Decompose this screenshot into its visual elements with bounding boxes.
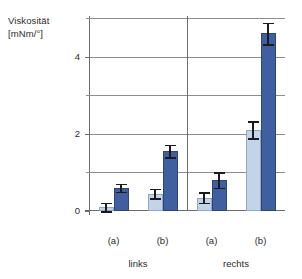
errorbar-dark-group-3-cap-upper — [263, 23, 274, 25]
errorbar-light-group-1-cap-lower — [150, 198, 161, 200]
group-label-1: rechts — [223, 258, 249, 269]
errorbar-dark-group-1 — [169, 145, 171, 157]
bars-layer — [89, 18, 285, 211]
viscosity-bar-chart: Viskosität [mNm/°] 024 (a)(b)(a)(b)links… — [0, 0, 302, 279]
x-axis-labels: (a)(b)(a)(b)linksrechts — [89, 214, 285, 274]
x-tick-label-1: (b) — [157, 235, 169, 246]
errorbar-dark-group-3-cap-lower — [263, 44, 274, 46]
errorbar-light-group-3 — [252, 121, 254, 138]
x-tick-label-0: (a) — [108, 235, 120, 246]
errorbar-light-group-3-cap-lower — [248, 138, 259, 140]
x-tick-label-3: (b) — [255, 235, 267, 246]
errorbar-light-group-3-cap-upper — [248, 121, 259, 123]
errorbar-light-group-0-cap-upper — [101, 203, 112, 205]
bar-light-group-3 — [246, 130, 261, 211]
errorbar-light-group-2-cap-upper — [199, 192, 210, 194]
errorbar-light-group-0-cap-lower — [101, 211, 112, 213]
errorbar-dark-group-0-cap-lower — [116, 192, 127, 194]
errorbar-dark-group-2-cap-upper — [214, 172, 225, 174]
errorbar-light-group-2-cap-lower — [199, 203, 210, 205]
errorbar-dark-group-2-cap-lower — [214, 188, 225, 190]
bar-dark-group-3 — [261, 33, 276, 211]
errorbar-dark-group-0-cap-upper — [116, 184, 127, 186]
y-tick-major — [85, 211, 90, 212]
y-tick-label: 2 — [54, 128, 80, 139]
errorbar-dark-group-2 — [218, 172, 220, 187]
errorbar-light-group-2 — [203, 192, 205, 202]
y-tick-label: 0 — [54, 205, 80, 216]
x-tick-label-2: (a) — [206, 235, 218, 246]
bar-dark-group-1 — [163, 151, 178, 211]
errorbar-light-group-1-cap-upper — [150, 189, 161, 191]
errorbar-dark-group-3 — [267, 23, 269, 45]
errorbar-dark-group-1-cap-lower — [165, 157, 176, 159]
errorbar-dark-group-1-cap-upper — [165, 145, 176, 147]
y-axis-tick-labels: 024 — [50, 0, 80, 279]
y-tick-label: 4 — [54, 51, 80, 62]
group-label-0: links — [128, 258, 147, 269]
